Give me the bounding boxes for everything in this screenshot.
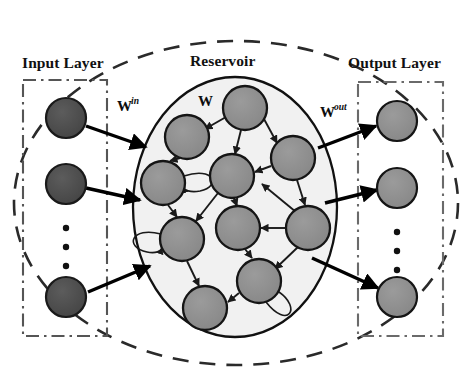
reservoir-node[interactable] <box>165 115 209 159</box>
output-ellipsis-dot <box>394 229 400 235</box>
reservoir-node[interactable] <box>210 154 254 198</box>
output-ellipsis-dot <box>394 267 400 273</box>
output-node[interactable] <box>377 101 417 141</box>
input-node[interactable] <box>46 164 86 204</box>
output-edge-1 <box>318 126 376 148</box>
input-edge-1 <box>86 126 146 147</box>
reservoir-node[interactable] <box>223 86 267 130</box>
w-in-superscript: in <box>131 96 139 106</box>
input-ellipsis-dot <box>63 263 69 269</box>
w-out-base: W <box>320 104 335 120</box>
input-nodes <box>46 98 86 317</box>
w-in-base: W <box>117 98 132 114</box>
w-out-superscript: out <box>334 102 347 112</box>
reservoir-node[interactable] <box>271 136 315 180</box>
output-node[interactable] <box>377 168 417 208</box>
figure-canvas: Input Layer Reservoir Output Layer W in … <box>0 0 469 389</box>
input-ellipsis-dot <box>63 225 69 231</box>
reservoir-node[interactable] <box>160 217 204 261</box>
reservoir-node[interactable] <box>216 206 260 250</box>
reservoir-node[interactable] <box>183 286 227 330</box>
input-node[interactable] <box>46 98 86 138</box>
input-edge-3 <box>88 266 150 292</box>
w-recurrent-label: W <box>198 93 213 109</box>
output-ellipsis-dot <box>394 248 400 254</box>
w-out-label: W out <box>320 102 347 120</box>
input-edge-2 <box>86 188 140 200</box>
esn-diagram: Input Layer Reservoir Output Layer W in … <box>0 0 469 389</box>
w-in-label: W in <box>117 96 139 114</box>
reservoir-node[interactable] <box>141 161 185 205</box>
input-ellipsis-dot <box>63 244 69 250</box>
output-layer-label: Output Layer <box>348 54 441 71</box>
input-layer-label: Input Layer <box>22 54 104 71</box>
output-nodes <box>377 101 417 317</box>
reservoir-node[interactable] <box>286 206 330 250</box>
output-node[interactable] <box>377 277 417 317</box>
reservoir-label: Reservoir <box>190 52 255 69</box>
input-node[interactable] <box>46 277 86 317</box>
reservoir-node[interactable] <box>237 259 281 303</box>
